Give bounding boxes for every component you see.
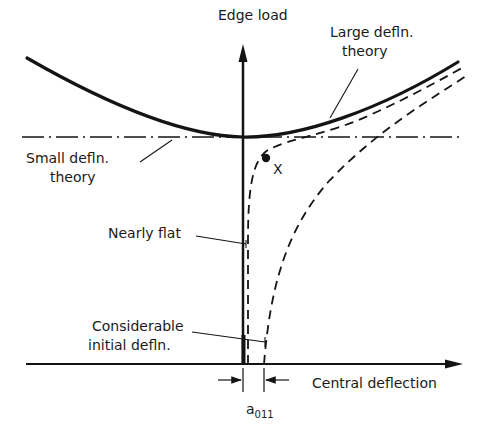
point-marker-label: X — [273, 161, 283, 177]
diagram: Edge load Central deflection X Large def… — [0, 0, 486, 440]
a011-dimension — [218, 368, 289, 392]
considerable-label-line1: Considerable — [92, 318, 184, 334]
considerable-label-line2: initial defln. — [88, 337, 171, 353]
a011-label-subscript: 011 — [255, 409, 274, 420]
point-marker-dot — [262, 154, 270, 162]
x-axis-arrow-icon — [445, 360, 463, 369]
x-axis-label: Central deflection — [312, 375, 437, 391]
small-defln-label-line1: Small defln. — [26, 150, 109, 166]
a011-label: a011 — [246, 401, 274, 420]
origin-thick-mark — [242, 335, 246, 364]
nearly-flat-leader — [196, 236, 246, 244]
small-defln-label-line2: theory — [50, 169, 96, 185]
y-axis-label: Edge load — [218, 7, 288, 23]
y-axis-arrow-icon — [239, 44, 248, 62]
considerable-initial-defln-curve — [264, 76, 466, 364]
nearly-flat-label: Nearly flat — [108, 225, 181, 241]
a011-label-main: a — [246, 401, 255, 417]
large-defln-leader — [330, 69, 358, 118]
considerable-leader — [192, 332, 265, 342]
small-defln-leader — [140, 140, 172, 162]
y-axis — [239, 44, 248, 364]
large-defln-label-line2: theory — [342, 43, 388, 59]
large-defln-label-line1: Large defln. — [330, 24, 413, 40]
